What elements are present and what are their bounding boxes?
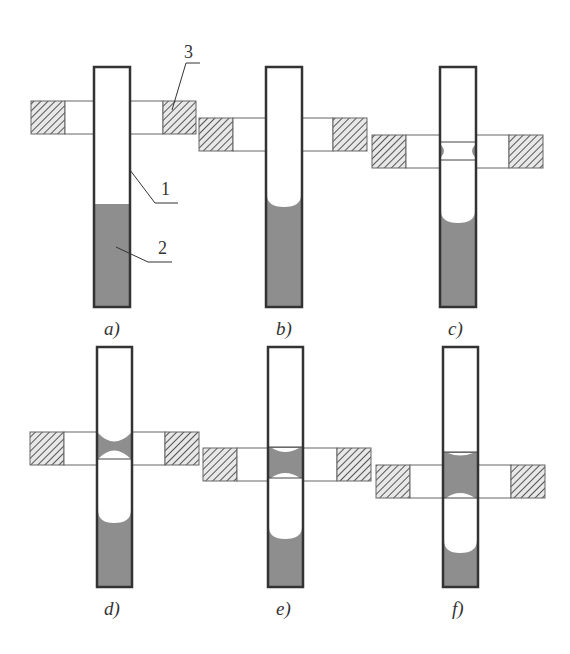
panel-c: c) [372,67,543,340]
label-3-leader: 3 [172,42,200,110]
heater-ring [372,135,543,168]
tube [97,347,132,587]
liquid-column [267,195,301,306]
label-heater-number: 3 [184,42,193,62]
figure-canvas: 3 1 2 a) b) [0,0,570,654]
tube [94,67,130,307]
caption-a: a) [104,318,120,340]
tube [266,67,302,307]
label-1-leader: 1 [130,170,178,203]
caption-e: e) [276,598,291,620]
caption-b: b) [276,318,292,340]
caption-f: f) [452,598,464,620]
liquid-column [95,204,129,306]
panel-d: d) [30,347,199,620]
tube [268,347,303,587]
caption-c: c) [448,318,463,340]
heater-ring [31,101,196,134]
panel-a: 3 1 2 a) [31,42,200,340]
tube [443,347,478,587]
label-tube-number: 1 [161,179,170,199]
panel-e: e) [203,347,371,620]
caption-d: d) [104,598,120,620]
liquid-column [441,211,475,306]
tube [440,67,476,307]
heater-ring [199,118,367,151]
heater-left-block [31,101,65,134]
heater-right-block [163,101,196,134]
panel-f: f) [376,347,545,620]
label-liquid-number: 2 [158,238,167,258]
panel-b: b) [199,67,367,340]
molten-zone [444,452,477,498]
